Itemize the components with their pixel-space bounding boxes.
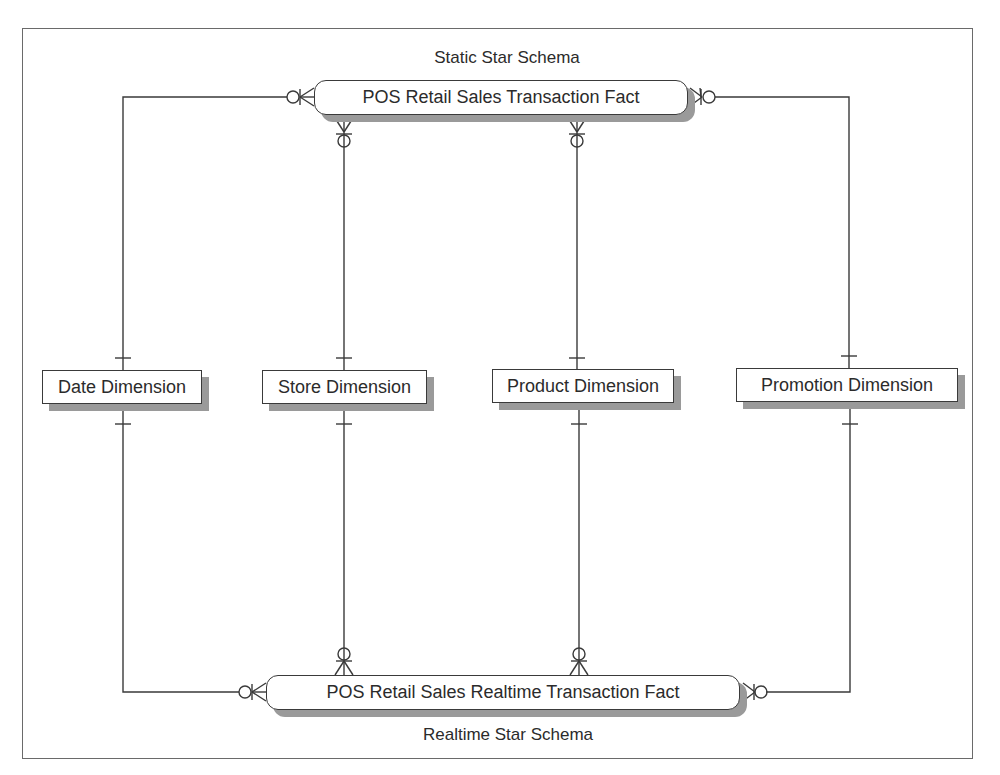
entity-store-dimension[interactable]: Store Dimension xyxy=(262,370,427,404)
entity-date-dimension[interactable]: Date Dimension xyxy=(42,370,202,404)
static-schema-caption: Static Star Schema xyxy=(434,48,580,68)
zero-circle-icon xyxy=(703,91,715,103)
rel-product-static xyxy=(568,117,586,372)
entity-realtime-fact[interactable]: POS Retail Sales Realtime Transaction Fa… xyxy=(266,675,740,710)
entity-product-dimension[interactable]: Product Dimension xyxy=(492,369,674,403)
zero-circle-icon xyxy=(755,686,767,698)
rel-store-static xyxy=(335,117,353,372)
entity-label: Product Dimension xyxy=(507,376,659,397)
entity-label: POS Retail Sales Realtime Transaction Fa… xyxy=(326,682,679,703)
rel-date-static xyxy=(115,88,314,373)
rel-promotion-realtime xyxy=(743,404,858,701)
entity-static-fact[interactable]: POS Retail Sales Transaction Fact xyxy=(314,80,688,115)
rel-date-realtime xyxy=(115,406,266,701)
entity-label: Promotion Dimension xyxy=(761,375,933,396)
zero-circle-icon xyxy=(287,91,299,103)
rel-store-realtime xyxy=(335,406,353,675)
zero-circle-icon xyxy=(239,686,251,698)
rel-product-realtime xyxy=(570,406,588,675)
entity-label: Store Dimension xyxy=(278,377,411,398)
realtime-schema-caption: Realtime Star Schema xyxy=(423,725,593,745)
entity-label: Date Dimension xyxy=(58,377,186,398)
diagram-canvas: Static Star Schema POS Retail Sales Tran… xyxy=(0,0,1000,775)
rel-promotion-static xyxy=(690,88,857,371)
entity-promotion-dimension[interactable]: Promotion Dimension xyxy=(736,368,958,402)
entity-label: POS Retail Sales Transaction Fact xyxy=(362,87,639,108)
